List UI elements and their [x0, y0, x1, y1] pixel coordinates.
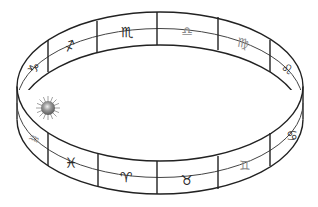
sign-gemini-icon: ♊︎: [239, 159, 251, 172]
sign-virgo-icon: ♍︎: [236, 36, 250, 51]
sign-aries-icon: ♈︎: [120, 170, 133, 184]
ring-band: [17, 12, 303, 194]
sign-libra-icon: ♎︎: [181, 25, 193, 38]
zodiac-diagram: ♑︎♐︎♏︎♎︎♍︎♌︎♋︎♊︎♉︎♈︎♓︎♒︎: [0, 0, 318, 207]
sign-scorpio-icon: ♏︎: [121, 25, 134, 39]
sign-taurus-icon: ♉︎: [181, 173, 194, 187]
ring-upper-edge: [17, 12, 303, 161]
sign-pisces-icon: ♓︎: [65, 156, 78, 170]
sun-icon: [36, 96, 60, 120]
sign-cancer-icon: ♋︎: [286, 129, 298, 142]
ecliptic-line: [17, 29, 303, 178]
zodiac-ring: [0, 0, 318, 207]
